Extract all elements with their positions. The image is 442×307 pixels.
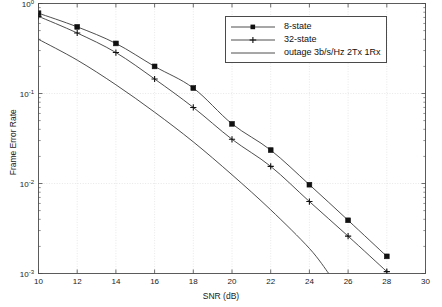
legend-label: outage 3b/s/Hz 2Tx 1Rx	[284, 48, 381, 57]
figure-container: 1012141618202224262830 10010-110-210-3 S…	[0, 0, 442, 307]
x-axis-label: SNR (dB)	[0, 292, 442, 301]
x-tick-label: 28	[382, 278, 391, 286]
x-tick-label: 20	[228, 278, 237, 286]
legend-sample-outage	[230, 47, 276, 59]
x-tick-label: 18	[189, 278, 198, 286]
x-tick-label: 24	[305, 278, 314, 286]
y-tick-label: 100	[8, 0, 34, 9]
x-tick-label: 30	[421, 278, 430, 286]
x-tick-label: 26	[344, 278, 353, 286]
legend-sample-8-state	[230, 21, 276, 33]
x-tick-label: 10	[34, 278, 43, 286]
x-tick-label: 16	[150, 278, 159, 286]
legend-entry: 8-state	[230, 20, 381, 33]
y-tick-label: 10-3	[8, 268, 34, 279]
legend-entry: 32-state	[230, 33, 381, 46]
legend-label: 8-state	[284, 22, 312, 31]
legend-label: 32-state	[284, 35, 317, 44]
x-tick-label: 12	[73, 278, 82, 286]
legend-box: 8-state 32-state outage 3b/s/Hz 2Tx 1Rx	[225, 16, 387, 63]
x-tick-label: 14	[111, 278, 120, 286]
legend-sample-32-state	[230, 34, 276, 46]
legend-entry: outage 3b/s/Hz 2Tx 1Rx	[230, 46, 381, 59]
y-axis-label: Frame Error Rate	[9, 87, 18, 197]
x-tick-label: 22	[266, 278, 275, 286]
